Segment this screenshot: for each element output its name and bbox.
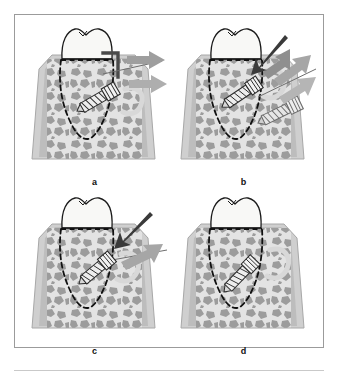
- panel-a-label: a: [17, 177, 172, 187]
- panel-b: b: [166, 19, 321, 186]
- panel-d: d: [166, 188, 321, 355]
- figure-baseline-rule: [14, 370, 324, 371]
- panel-b-label: b: [166, 177, 321, 187]
- panel-c-artwork: [17, 188, 172, 336]
- panel-d-artwork: [166, 188, 321, 336]
- panel-a-artwork: [17, 19, 172, 167]
- tooth-crown-d: [211, 198, 261, 228]
- panel-c-label: c: [17, 346, 172, 356]
- tooth-crown-c: [62, 198, 112, 228]
- panel-d-label: d: [166, 346, 321, 356]
- tooth-crown-b: [211, 29, 261, 59]
- panel-b-artwork: [166, 19, 321, 167]
- figure-root: a: [0, 0, 338, 384]
- figure-frame: a: [14, 14, 324, 348]
- panel-a: a: [17, 19, 172, 186]
- panel-c: c: [17, 188, 172, 355]
